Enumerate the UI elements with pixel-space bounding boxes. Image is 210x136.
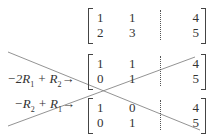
cell: 4: [193, 11, 200, 25]
matrix-step-1: 1 1 4 0 1 5: [88, 54, 206, 88]
row-operation-2: −R2 + R1→: [14, 96, 75, 114]
cell: 0: [97, 72, 104, 86]
cell: 2: [97, 26, 104, 40]
cell: 5: [193, 72, 200, 86]
augment-divider: [160, 56, 161, 86]
matrix-original: 1 1 4 2 3 5: [88, 8, 206, 42]
cell: 1: [129, 11, 136, 25]
augment-divider: [160, 10, 161, 40]
cell: 0: [129, 101, 136, 115]
matrix-step-2: 1 0 4 0 1 5: [88, 98, 206, 132]
cell: 1: [97, 11, 104, 25]
cell: 1: [97, 57, 104, 71]
cell: 1: [129, 72, 136, 86]
cell: 1: [129, 116, 136, 130]
cell: 4: [193, 101, 200, 115]
cell: 4: [193, 57, 200, 71]
cell: 5: [193, 116, 200, 130]
cell: 0: [97, 116, 104, 130]
augment-divider: [160, 100, 161, 130]
cell: 1: [129, 57, 136, 71]
cell: 1: [97, 101, 104, 115]
row-operation-1: −2R1 + R2→: [7, 71, 74, 89]
cell: 3: [129, 26, 136, 40]
cell: 5: [193, 26, 200, 40]
